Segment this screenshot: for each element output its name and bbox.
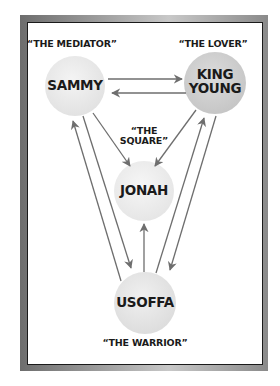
node-label-jonah: JONAH [120, 183, 168, 197]
node-label-usoffa: USOFFA [116, 295, 174, 309]
role-label-mediator: “THE MEDIATOR” [27, 39, 117, 49]
arrow-king-young-to-usoffa [170, 116, 216, 270]
role-label-warrior: “THE WARRIOR” [102, 338, 187, 348]
node-label-king-young: KING YOUNG [189, 67, 242, 95]
arrow-usoffa-to-sammy [73, 121, 121, 281]
role-label-lover: “THE LOVER” [178, 39, 247, 49]
role-label-square: “THE SQUARE” [120, 126, 168, 146]
node-label-sammy: SAMMY [47, 78, 102, 92]
